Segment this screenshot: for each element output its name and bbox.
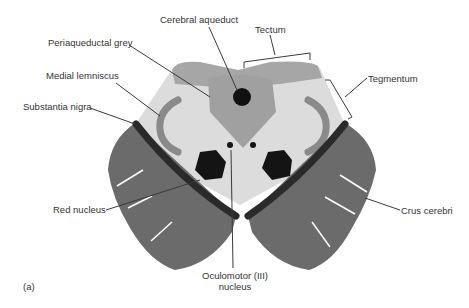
oculomotor-nucleus-right	[250, 142, 256, 148]
label-tegmentum: Tegmentum	[368, 73, 418, 84]
cerebral-aqueduct	[233, 88, 251, 106]
label-medial-lemniscus: Medial lemniscus	[46, 70, 119, 81]
label-crus-cerebri: Crus cerebri	[401, 205, 453, 216]
label-cerebral-aqueduct: Cerebral aqueduct	[160, 14, 238, 25]
oculomotor-nucleus-left	[227, 142, 233, 148]
label-periaqueductal-grey: Periaqueductal grey	[48, 37, 133, 48]
label-oculomotor-line2: nucleus	[200, 281, 270, 292]
label-substantia-nigra: Substantia nigra	[23, 101, 92, 112]
label-tectum: Tectum	[255, 24, 286, 35]
label-oculomotor-nucleus: Oculomotor (III) nucleus	[200, 270, 270, 292]
panel-label: (a)	[23, 281, 35, 292]
label-oculomotor-line1: Oculomotor (III)	[200, 270, 270, 281]
label-red-nucleus: Red nucleus	[53, 204, 106, 215]
